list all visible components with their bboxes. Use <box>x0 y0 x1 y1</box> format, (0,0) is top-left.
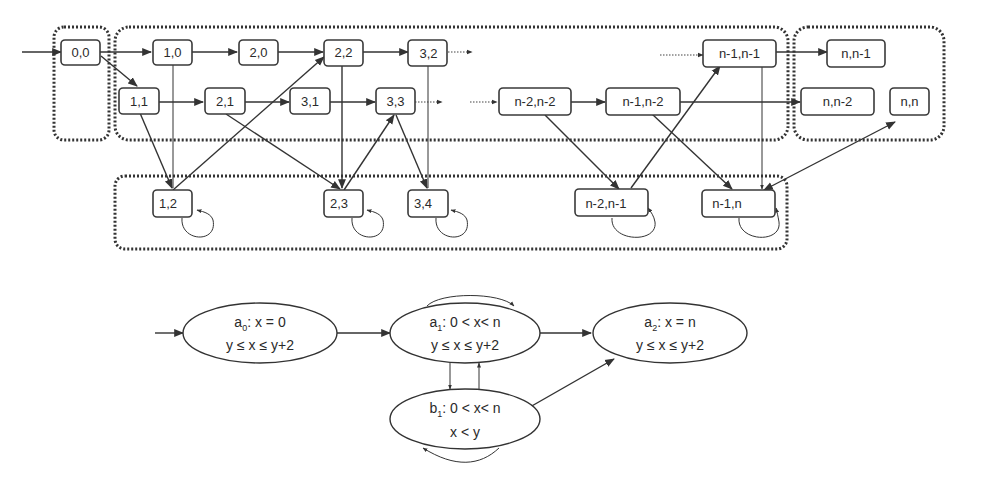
state-b1: b1: 0 < x< n x < y <box>390 389 540 449</box>
group-bottom <box>115 176 787 249</box>
node-3-3: 3,3 <box>376 88 415 114</box>
svg-text:n-2,n-1: n-2,n-1 <box>585 196 626 211</box>
node-1-0: 1,0 <box>153 40 192 65</box>
node-n1-n: n-1,n <box>702 190 775 217</box>
svg-text:1,2: 1,2 <box>159 196 177 211</box>
node-1-1: 1,1 <box>119 88 159 114</box>
svg-text:n-1,n-2: n-1,n-2 <box>622 94 663 109</box>
svg-text:3,3: 3,3 <box>386 94 404 109</box>
svg-text:1,1: 1,1 <box>130 94 148 109</box>
svg-text:3,1: 3,1 <box>301 94 319 109</box>
node-2-1: 2,1 <box>205 88 245 114</box>
node-n-n: n,n <box>890 88 929 115</box>
node-n-n1: n,n-1 <box>827 40 885 67</box>
svg-text:0,0: 0,0 <box>71 45 89 60</box>
node-n1-n1: n-1,n-1 <box>703 40 776 67</box>
svg-text:2,3: 2,3 <box>330 196 348 211</box>
svg-text:2,0: 2,0 <box>249 45 267 60</box>
group-main <box>115 27 788 140</box>
node-3-2: 3,2 <box>408 40 447 66</box>
svg-text:1,0: 1,0 <box>163 45 181 60</box>
node-n-n2: n,n-2 <box>801 88 874 115</box>
node-1-2: 1,2 <box>153 190 192 217</box>
node-3-4: 3,4 <box>408 190 448 217</box>
state-a2: a2: x = n y ≤ x ≤ y+2 <box>593 303 747 363</box>
svg-text:2,2: 2,2 <box>334 45 352 60</box>
node-3-1: 3,1 <box>290 88 330 114</box>
svg-text:y ≤ x ≤ y+2: y ≤ x ≤ y+2 <box>636 337 704 353</box>
state-diagram: 0,0 1,0 2,0 2,2 3,2 1,1 2,1 3,1 3,3 n-2,… <box>0 0 982 496</box>
svg-text:x < y: x < y <box>450 424 480 440</box>
svg-text:3,4: 3,4 <box>414 196 432 211</box>
svg-text:y ≤ x ≤ y+2: y ≤ x ≤ y+2 <box>226 337 294 353</box>
svg-text:n-1,n-1: n-1,n-1 <box>719 46 760 61</box>
node-2-3: 2,3 <box>324 190 363 217</box>
node-n2-n2: n-2,n-2 <box>499 88 571 115</box>
svg-text:2,1: 2,1 <box>216 94 234 109</box>
svg-text:n,n-2: n,n-2 <box>823 94 853 109</box>
node-n1-n2: n-1,n-2 <box>606 88 680 115</box>
svg-text:n,n-1: n,n-1 <box>841 46 871 61</box>
node-2-2: 2,2 <box>324 40 363 66</box>
node-2-0: 2,0 <box>239 40 278 65</box>
svg-text:n,n: n,n <box>900 94 918 109</box>
svg-text:n-1,n: n-1,n <box>712 196 742 211</box>
svg-text:n-2,n-2: n-2,n-2 <box>514 94 555 109</box>
node-n2-n1: n-2,n-1 <box>575 189 648 216</box>
node-0-0: 0,0 <box>61 40 100 65</box>
svg-text:y ≤ x ≤ y+2: y ≤ x ≤ y+2 <box>431 337 499 353</box>
state-a1: a1: 0 < x< n y ≤ x ≤ y+2 <box>390 303 540 363</box>
svg-text:3,2: 3,2 <box>419 46 437 61</box>
state-a0: a0: x = 0 y ≤ x ≤ y+2 <box>183 303 337 363</box>
